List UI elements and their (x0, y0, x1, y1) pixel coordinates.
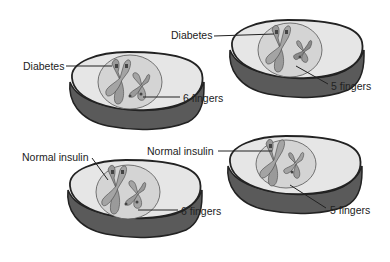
label-5-fingers-bottom-right: 5 fingers (330, 204, 370, 216)
label-6-fingers-bottom-left: 6 fingers (181, 205, 221, 217)
label-6-fingers-top-left: 6 fingers (183, 92, 223, 104)
cell-bottom-right (228, 136, 362, 213)
label-diabetes-top-right: Diabetes (171, 29, 212, 41)
label-diabetes-top-left: Diabetes (23, 60, 64, 72)
label-normal-insulin-bottom-right: Normal insulin (147, 145, 214, 157)
label-5-fingers-top-right: 5 fingers (331, 80, 371, 92)
cell-bottom-left (68, 160, 202, 237)
diagram: Diabetes 6 fingers Diabetes 5 fingers No… (0, 0, 390, 262)
cell-top-left (70, 52, 204, 129)
label-normal-insulin-bottom-left: Normal insulin (22, 151, 89, 163)
